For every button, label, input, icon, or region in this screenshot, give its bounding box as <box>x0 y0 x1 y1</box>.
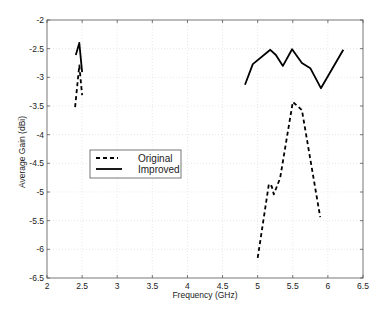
legend-label-original: Original <box>138 153 172 164</box>
grid-lines <box>47 20 363 278</box>
x-tick-label: 2.5 <box>76 281 88 291</box>
y-tick-label: -5.5 <box>29 216 44 226</box>
series-original-line <box>75 65 82 107</box>
y-tick-label: -2 <box>36 15 44 25</box>
legend-label-improved: Improved <box>138 164 180 175</box>
x-tick-label: 2 <box>45 281 50 291</box>
x-tick-label: 5 <box>255 281 260 291</box>
series-original-line <box>258 102 321 258</box>
y-tick-label: -5 <box>36 187 44 197</box>
x-tick-label: 5.5 <box>287 281 299 291</box>
chart: 22.533.544.555.566.5 -2-2.5-3-3.5-4-4.5-… <box>0 0 387 312</box>
x-tick-label: 6.5 <box>357 281 369 291</box>
x-axis-label: Frequency (GHz) <box>172 290 237 300</box>
plot-frame <box>47 20 363 278</box>
x-tick-label: 3.5 <box>146 281 158 291</box>
axis-ticks <box>47 20 363 278</box>
x-tick-label: 3 <box>115 281 120 291</box>
y-tick-label: -3.5 <box>29 101 44 111</box>
y-tick-label: -4.5 <box>29 158 44 168</box>
x-tick-label: 6 <box>326 281 331 291</box>
y-tick-label: -4 <box>36 130 44 140</box>
y-tick-label: -2.5 <box>29 44 44 54</box>
legend: Original Improved <box>90 150 181 178</box>
y-tick-label: -6 <box>36 244 44 254</box>
y-tick-labels: -2-2.5-3-3.5-4-4.5-5-5.5-6-6.5 <box>29 15 44 283</box>
y-tick-label: -6.5 <box>29 273 44 283</box>
y-axis-label: Average Gain (dBi) <box>17 116 27 188</box>
series-improved-line <box>245 49 343 88</box>
y-tick-label: -3 <box>36 72 44 82</box>
